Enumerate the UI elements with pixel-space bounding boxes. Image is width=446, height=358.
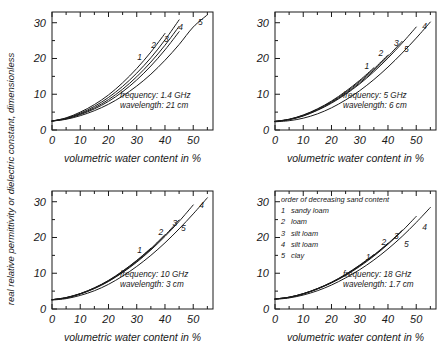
legend-key-4: 4 bbox=[281, 240, 285, 249]
x-axis-title: volumetric water content in % bbox=[64, 152, 201, 164]
plot-area: 01020304050010203012345frequency: 5 GHzw… bbox=[223, 0, 446, 179]
y-axis-tick-label: 30 bbox=[257, 196, 270, 208]
x-axis-tick-label: 10 bbox=[297, 134, 310, 146]
curve-label-5: 5 bbox=[198, 17, 203, 27]
plot-area: 01020304050010203012345order of decreasi… bbox=[223, 179, 446, 358]
y-axis-tick-label: 0 bbox=[40, 124, 47, 136]
y-axis-tick-label: 10 bbox=[257, 88, 270, 100]
annotation-line-1: frequency: 1.4 GHz bbox=[120, 91, 191, 100]
plot-frame bbox=[52, 191, 213, 309]
x-axis-title: volumetric water content in % bbox=[287, 331, 424, 343]
x-axis-title: volumetric water content in % bbox=[287, 152, 424, 164]
y-axis-tick-label: 0 bbox=[40, 303, 47, 315]
panel-10ghz: 01020304050010203012345frequency: 10 GHz… bbox=[0, 179, 223, 358]
legend-label-3: silt loam bbox=[291, 229, 318, 238]
x-axis-tick-label: 50 bbox=[187, 134, 200, 146]
annotation-line-2: wavelength: 1.7 cm bbox=[343, 280, 414, 289]
y-axis-tick-label: 20 bbox=[33, 231, 47, 243]
y-axis-tick-label: 10 bbox=[34, 88, 47, 100]
curve-label-1: 1 bbox=[137, 245, 142, 255]
annotation-line-1: frequency: 18 GHz bbox=[343, 270, 411, 279]
curve-label-5: 5 bbox=[404, 44, 409, 54]
annotation-line-1: frequency: 10 GHz bbox=[120, 270, 188, 279]
x-axis-tick-label: 50 bbox=[410, 134, 423, 146]
legend-label-5: clay bbox=[291, 251, 305, 260]
figure-dielectric-constant-panels: real relative permittivity or dielectric… bbox=[0, 0, 446, 358]
y-axis-tick-label: 0 bbox=[263, 303, 270, 315]
y-axis-tick-label: 20 bbox=[256, 231, 270, 243]
y-axis-tick-label: 30 bbox=[257, 17, 270, 29]
y-axis-tick-label: 0 bbox=[263, 124, 270, 136]
plot-area: 01020304050010203012345frequency: 1.4 GH… bbox=[0, 0, 223, 179]
curve-label-4: 4 bbox=[178, 22, 183, 32]
panel-18ghz: 01020304050010203012345order of decreasi… bbox=[223, 179, 446, 358]
x-axis-tick-label: 20 bbox=[324, 313, 338, 325]
curve-label-3: 3 bbox=[394, 38, 399, 48]
curve-label-1: 1 bbox=[137, 52, 142, 62]
x-axis-tick-label: 10 bbox=[74, 134, 87, 146]
x-axis-title: volumetric water content in % bbox=[64, 331, 201, 343]
x-axis-tick-label: 40 bbox=[382, 134, 395, 146]
x-axis-tick-label: 10 bbox=[74, 313, 87, 325]
curve-label-5: 5 bbox=[404, 239, 409, 249]
x-axis-tick-label: 20 bbox=[101, 134, 115, 146]
annotation-line-2: wavelength: 6 cm bbox=[343, 101, 407, 110]
legend-label-1: sandy loam bbox=[291, 206, 329, 215]
curve-label-1: 1 bbox=[364, 61, 369, 71]
x-axis-tick-label: 40 bbox=[159, 313, 172, 325]
x-axis-tick-label: 30 bbox=[354, 134, 367, 146]
x-axis-tick-label: 0 bbox=[272, 134, 279, 146]
legend-key-5: 5 bbox=[281, 251, 286, 260]
x-axis-tick-label: 0 bbox=[272, 313, 279, 325]
panel-1-4ghz: 01020304050010203012345frequency: 1.4 GH… bbox=[0, 0, 223, 179]
y-axis-tick-label: 10 bbox=[34, 267, 47, 279]
curve-label-4: 4 bbox=[422, 222, 427, 232]
curve-label-3: 3 bbox=[164, 34, 169, 44]
x-axis-tick-label: 40 bbox=[159, 134, 172, 146]
curve-label-2: 2 bbox=[378, 48, 384, 58]
curve-label-5: 5 bbox=[181, 223, 186, 233]
x-axis-tick-label: 20 bbox=[101, 313, 115, 325]
legend-label-4: silt loam bbox=[291, 240, 318, 249]
curve-2 bbox=[275, 55, 388, 122]
y-axis-tick-label: 30 bbox=[34, 196, 47, 208]
plot-frame bbox=[275, 12, 436, 130]
plot-frame bbox=[52, 12, 213, 130]
curve-2 bbox=[52, 235, 165, 300]
legend-key-2: 2 bbox=[280, 217, 285, 226]
annotation-line-2: wavelength: 21 cm bbox=[120, 101, 188, 110]
legend-label-2: loam bbox=[291, 217, 307, 226]
x-axis-tick-label: 0 bbox=[49, 134, 56, 146]
legend-header: order of decreasing sand content bbox=[281, 195, 390, 204]
panel-5ghz: 01020304050010203012345frequency: 5 GHzw… bbox=[223, 0, 446, 179]
curve-label-2: 2 bbox=[157, 227, 163, 237]
x-axis-tick-label: 30 bbox=[131, 134, 144, 146]
y-axis-tick-label: 20 bbox=[33, 52, 47, 64]
x-axis-tick-label: 50 bbox=[187, 313, 200, 325]
annotation-line-1: frequency: 5 GHz bbox=[343, 91, 407, 100]
x-axis-tick-label: 0 bbox=[49, 313, 56, 325]
x-axis-tick-label: 30 bbox=[354, 313, 367, 325]
legend-key-1: 1 bbox=[281, 206, 285, 215]
annotation-line-2: wavelength: 3 cm bbox=[120, 280, 184, 289]
x-axis-tick-label: 40 bbox=[382, 313, 395, 325]
x-axis-tick-label: 10 bbox=[297, 313, 310, 325]
x-axis-tick-label: 20 bbox=[324, 134, 338, 146]
x-axis-tick-label: 30 bbox=[131, 313, 144, 325]
y-axis-tick-label: 10 bbox=[257, 267, 270, 279]
y-axis-tick-label: 30 bbox=[34, 17, 47, 29]
curve-label-2: 2 bbox=[150, 40, 156, 50]
legend-key-3: 3 bbox=[281, 229, 286, 238]
x-axis-tick-label: 50 bbox=[410, 313, 423, 325]
plot-area: 01020304050010203012345frequency: 10 GHz… bbox=[0, 179, 223, 358]
y-axis-tick-label: 20 bbox=[256, 52, 270, 64]
